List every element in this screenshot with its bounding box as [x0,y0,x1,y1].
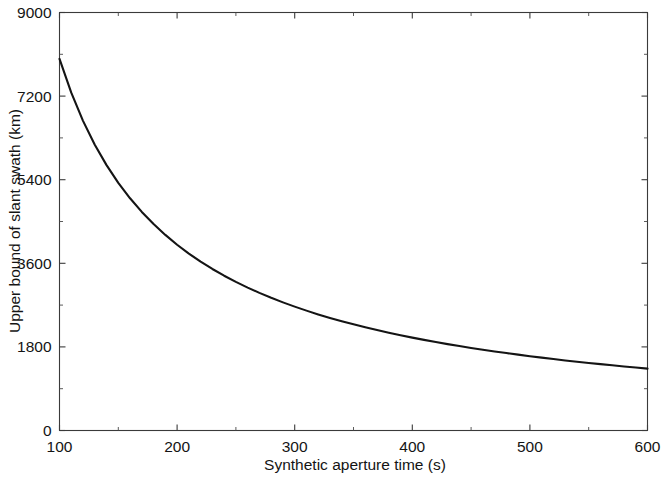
x-tick-label: 500 [517,438,543,455]
x-axis-tick-labels: 100200300400500600 [47,438,661,455]
y-tick-label: 9000 [17,4,52,21]
x-tick-label: 400 [399,438,425,455]
x-tick-label: 300 [282,438,308,455]
y-tick-label: 7200 [17,88,52,105]
line-chart-plot: 018003600540072009000 100200300400500600… [0,0,661,478]
plot-axes-box [60,13,648,431]
x-tick-label: 200 [164,438,190,455]
x-tick-label: 600 [635,438,661,455]
y-tick-label: 1800 [17,338,52,355]
y-axis-title: Upper bound of slant swath (km) [6,109,23,333]
data-series-line [60,59,648,369]
axis-ticks [60,13,648,431]
x-axis-title: Synthetic aperture time (s) [264,456,446,473]
x-tick-label: 100 [47,438,73,455]
y-tick-label: 0 [43,422,52,439]
chart-figure: 018003600540072009000 100200300400500600… [0,0,661,478]
